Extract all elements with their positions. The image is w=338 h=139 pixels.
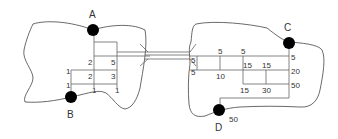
right-region: [188, 22, 324, 116]
left-region: [24, 22, 146, 109]
node-d-label: D: [215, 122, 222, 133]
node-a-label: A: [89, 9, 96, 20]
node-c-label: C: [284, 22, 291, 33]
value-label: 2: [88, 72, 93, 81]
value-label: 15: [240, 86, 249, 95]
value-label: 5: [191, 68, 196, 77]
value-label: 50: [291, 81, 300, 90]
value-label: 5: [241, 47, 246, 56]
value-label: 1: [66, 67, 71, 76]
node-c: [283, 37, 295, 49]
value-label: 1: [92, 86, 97, 95]
value-label: 1: [66, 81, 71, 90]
value-label: 5: [218, 47, 223, 56]
node-b-label: B: [67, 109, 74, 120]
value-label: 50: [229, 115, 238, 124]
value-label: 1: [115, 86, 120, 95]
value-label: 5: [111, 58, 116, 67]
node-a: [87, 24, 99, 36]
value-label: 2: [88, 58, 93, 67]
value-label: 20: [291, 67, 300, 76]
network-diagram: A B C D 2 5 1 2 3 1 1 1 5 5 5 5 10 15 15…: [0, 0, 338, 139]
value-label: 3: [111, 72, 116, 81]
value-label: 5: [191, 56, 196, 65]
node-d: [213, 104, 225, 116]
value-label: 15: [262, 61, 271, 70]
value-label: 30: [262, 86, 271, 95]
value-label: 10: [216, 72, 225, 81]
value-label: 5: [291, 53, 296, 62]
value-label: 15: [243, 61, 252, 70]
node-b: [65, 91, 77, 103]
